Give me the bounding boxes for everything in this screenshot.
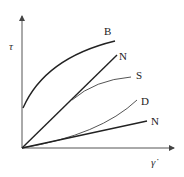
label-newtonian-low: N bbox=[151, 115, 159, 127]
label-shear-thinning: S bbox=[136, 69, 142, 81]
label-dilatant: D bbox=[141, 95, 149, 107]
x-axis-label: γ̇ bbox=[151, 156, 159, 168]
curve-newtonian-low bbox=[22, 121, 147, 148]
curve-bingham bbox=[23, 41, 115, 108]
curve-newtonian-high bbox=[22, 55, 117, 148]
label-bingham: B bbox=[104, 25, 111, 37]
label-newtonian-high: N bbox=[119, 50, 127, 62]
flow-curve-diagram: τ γ̇ B N S D N bbox=[0, 0, 184, 177]
curve-shear-thinning bbox=[72, 77, 131, 100]
curve-dilatant bbox=[22, 100, 137, 148]
y-axis-label: τ bbox=[9, 40, 14, 52]
